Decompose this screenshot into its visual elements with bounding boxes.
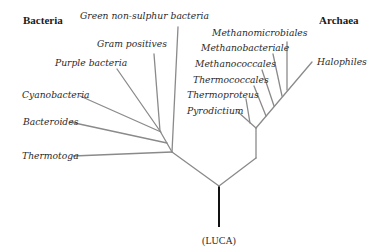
group-title-archaea: Archaea bbox=[319, 14, 359, 26]
taxon-label: Methanomicrobiales bbox=[211, 27, 308, 38]
taxon-label: Methanobacteriale bbox=[200, 42, 290, 53]
branch-root-to-archaea bbox=[219, 158, 256, 186]
taxon-label: Green non-sulphur bacteria bbox=[80, 10, 209, 21]
branch-bacteroides bbox=[70, 122, 167, 143]
taxon-label: Thermotoga bbox=[22, 150, 79, 161]
branch-root-to-bacteria bbox=[172, 152, 219, 186]
taxon-label: Gram positives bbox=[97, 38, 167, 49]
taxon-label: Thermoproteus bbox=[187, 89, 259, 100]
branch-green-non-sulphur bbox=[172, 27, 178, 152]
taxon-label: Bacteroides bbox=[22, 116, 79, 127]
taxon-label: Halophiles bbox=[316, 56, 367, 67]
taxon-label: Thermococcales bbox=[193, 74, 269, 85]
taxon-label: Cyanobacteria bbox=[22, 89, 90, 100]
phylogenetic-tree: Bacteria Archaea Green non-sulphur bacte… bbox=[0, 0, 382, 250]
root-label-luca: (LUCA) bbox=[202, 235, 236, 247]
branch-gram-positives bbox=[154, 54, 160, 131]
group-title-bacteria: Bacteria bbox=[23, 14, 63, 26]
taxon-label: Pyrodictium bbox=[186, 105, 244, 116]
branch-thermotoga bbox=[73, 152, 172, 156]
branch-archaea-backbone bbox=[256, 62, 312, 128]
taxon-label: Purple bacteria bbox=[54, 57, 127, 68]
taxon-label: Methanococcales bbox=[194, 58, 276, 69]
